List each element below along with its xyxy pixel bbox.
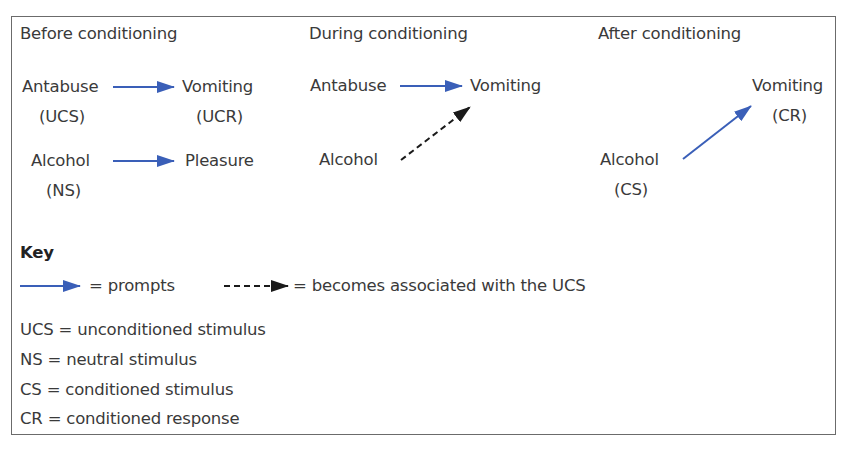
- arrow-after-alcohol-vomiting: [683, 106, 751, 159]
- arrow-during-alcohol-vomiting-dashed: [401, 107, 470, 160]
- arrows-layer: [0, 0, 853, 450]
